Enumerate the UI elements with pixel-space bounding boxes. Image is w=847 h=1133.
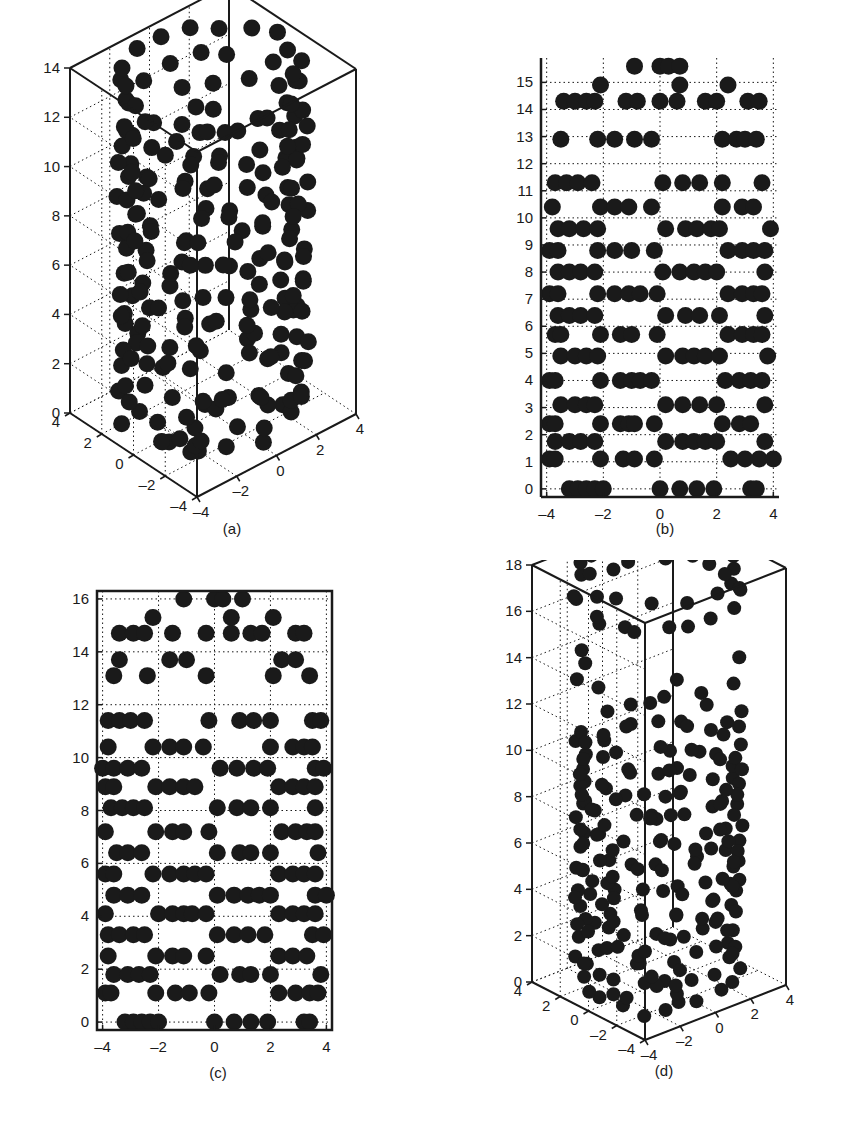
data-point	[174, 79, 191, 96]
data-point	[262, 739, 279, 756]
data-point	[699, 827, 713, 841]
data-point	[658, 931, 672, 945]
data-point	[657, 307, 674, 324]
data-point	[716, 728, 730, 742]
data-point	[175, 823, 192, 840]
data-point	[735, 704, 749, 718]
data-point	[593, 968, 607, 982]
data-point	[592, 326, 609, 343]
data-point	[133, 887, 150, 904]
data-point	[646, 451, 663, 468]
chart-panel-d: 024681012141618–4–2024–4–2024	[423, 560, 847, 1133]
data-point	[652, 93, 669, 110]
data-point	[585, 874, 599, 888]
x-tick-label: 2	[712, 505, 720, 522]
data-point	[100, 739, 117, 756]
data-point	[296, 625, 313, 642]
z-tick-label: 8	[514, 788, 522, 805]
data-point	[714, 174, 731, 191]
y-tick-label: 5	[525, 344, 533, 361]
z-tick-label: 18	[505, 560, 522, 573]
data-point	[589, 220, 606, 237]
data-point	[657, 433, 674, 450]
data-point	[691, 307, 708, 324]
scatter-plot-b: –4–20240123456789101112131415	[423, 0, 847, 560]
data-point	[711, 220, 728, 237]
data-point	[732, 650, 746, 664]
data-point	[149, 414, 166, 431]
data-point	[621, 560, 635, 569]
data-point	[129, 205, 146, 222]
data-point	[705, 894, 719, 908]
data-point	[552, 326, 569, 343]
data-point	[112, 286, 129, 303]
data-point	[586, 307, 603, 324]
data-point	[150, 299, 167, 316]
data-point	[609, 745, 623, 759]
data-point	[161, 339, 178, 356]
data-point	[704, 723, 718, 737]
data-point	[688, 842, 702, 856]
y-tick-label: 14	[516, 100, 533, 117]
data-point	[735, 762, 749, 776]
data-point	[671, 480, 688, 497]
data-point	[575, 643, 589, 657]
data-point	[143, 223, 160, 240]
y-tick-label: 6	[81, 854, 89, 871]
data-point	[254, 625, 271, 642]
y-tick-label: 12	[516, 155, 533, 172]
data-point	[578, 735, 592, 749]
data-point	[646, 415, 663, 432]
data-point	[657, 690, 671, 704]
x-tick-label: –4	[538, 505, 555, 522]
data-point	[725, 975, 739, 989]
data-point	[631, 862, 645, 876]
data-point	[120, 264, 137, 281]
data-point	[654, 740, 668, 754]
data-point	[711, 307, 728, 324]
data-point	[762, 220, 779, 237]
data-point	[691, 396, 708, 413]
z-tick-label: 14	[43, 59, 60, 76]
y-tick-label: 10	[516, 209, 533, 226]
data-point	[683, 768, 697, 782]
data-point	[214, 391, 231, 408]
data-point	[193, 44, 210, 61]
x-tick	[237, 476, 240, 481]
y-tick	[640, 1040, 645, 1043]
data-point	[263, 299, 280, 316]
data-point	[178, 651, 195, 668]
data-point	[279, 41, 296, 58]
x-tick-label: 4	[786, 991, 794, 1008]
data-point	[198, 865, 215, 882]
data-point	[700, 698, 714, 712]
data-point	[126, 233, 143, 250]
y-tick-label: –4	[170, 497, 187, 514]
y-tick	[129, 455, 134, 458]
data-point	[709, 940, 723, 954]
data-point	[270, 77, 287, 94]
data-point	[138, 355, 155, 372]
data-point	[307, 905, 324, 922]
data-point	[251, 276, 268, 293]
x-tick-label: 2	[316, 441, 324, 458]
data-point	[100, 947, 117, 964]
data-point	[714, 415, 731, 432]
data-point	[200, 712, 217, 729]
data-point	[209, 926, 226, 943]
data-point	[301, 667, 318, 684]
data-point	[315, 926, 332, 943]
z-tick-label: 2	[52, 355, 60, 372]
data-point	[733, 961, 747, 975]
data-point	[209, 887, 226, 904]
data-point	[756, 264, 773, 281]
data-point	[133, 760, 150, 777]
z-tick-label: 10	[43, 158, 60, 175]
z-tick-label: 6	[52, 256, 60, 273]
data-point	[632, 285, 649, 302]
data-point	[669, 908, 683, 922]
y-tick-label: –2	[139, 476, 156, 493]
data-point	[241, 344, 258, 361]
data-point	[223, 625, 240, 642]
data-point	[705, 480, 722, 497]
